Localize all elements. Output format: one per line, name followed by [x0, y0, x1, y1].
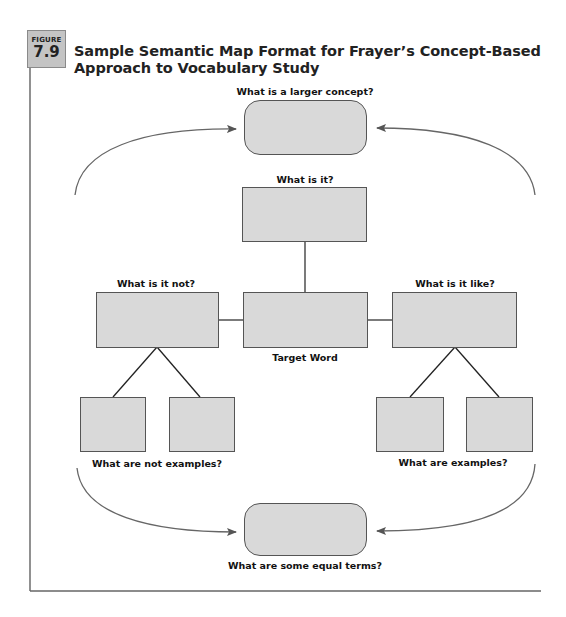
arc-top-right [377, 128, 535, 195]
larger-concept-label: What is a larger concept? [237, 86, 374, 97]
figure-title-line-1: Sample Semantic Map Format for Frayer’s … [74, 43, 541, 60]
arc-bottom-right [377, 464, 535, 531]
branch-not-example-1 [113, 347, 157, 397]
larger-concept-box [244, 100, 367, 155]
branch-example-2 [455, 347, 499, 397]
not-example-box-1 [80, 397, 146, 452]
what-is-it-label: What is it? [276, 174, 333, 185]
target-word-box [243, 292, 368, 348]
what-is-it-box [242, 187, 367, 242]
what-is-it-not-box [96, 292, 219, 348]
target-word-label: Target Word [272, 352, 338, 363]
example-box-2 [466, 397, 533, 452]
what-is-it-like-label: What is it like? [415, 278, 494, 289]
figure-title: Sample Semantic Map Format for Frayer’s … [74, 43, 541, 77]
examples-label: What are examples? [399, 457, 508, 468]
arc-top-left [75, 129, 236, 195]
figure-number: 7.9 [28, 44, 65, 61]
equal-terms-label: What are some equal terms? [228, 560, 382, 571]
what-is-it-like-box [392, 292, 517, 348]
branch-example-1 [410, 347, 455, 397]
figure-badge: FIGURE 7.9 [27, 30, 66, 68]
not-examples-label: What are not examples? [92, 458, 222, 469]
what-is-it-not-label: What is it not? [117, 278, 195, 289]
arc-bottom-left [77, 468, 236, 532]
equal-terms-box [244, 503, 367, 556]
example-box-1 [376, 397, 444, 452]
not-example-box-2 [169, 397, 235, 452]
branch-not-example-2 [157, 347, 200, 397]
figure-title-line-2: Approach to Vocabulary Study [74, 60, 541, 77]
